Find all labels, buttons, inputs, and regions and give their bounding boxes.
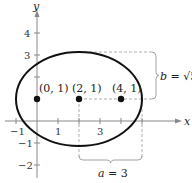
x-tick-3: 3 bbox=[97, 126, 103, 137]
point-label-2-1: (2, 1) bbox=[72, 82, 102, 95]
x-tick-1: 1 bbox=[55, 126, 61, 137]
y-tick-3: 3 bbox=[24, 50, 30, 61]
y-tick-neg2: −2 bbox=[18, 160, 33, 171]
point-2-1 bbox=[76, 96, 82, 102]
point-label-4-1: (4, 1) bbox=[112, 82, 142, 95]
point-4-1 bbox=[118, 96, 124, 102]
b-annotation: b = √5 bbox=[160, 70, 192, 83]
x-axis-label: x bbox=[184, 115, 191, 128]
a-value: = 3 bbox=[105, 167, 128, 180]
x-axis-arrow-icon bbox=[175, 119, 182, 124]
point-label-0-1: (0, 1) bbox=[39, 82, 69, 95]
b-symbol: b bbox=[160, 70, 167, 83]
y-tick-neg1: −1 bbox=[18, 138, 33, 149]
x-tick-neg1: −1 bbox=[10, 126, 25, 137]
point-0-1 bbox=[34, 96, 40, 102]
a-brace-icon bbox=[79, 156, 142, 163]
b-value: = √5 bbox=[167, 70, 192, 83]
a-annotation: a = 3 bbox=[98, 167, 128, 180]
ellipse-diagram: −1 1 3 4 3 −1 −2 x y (0, 1) (2, 1) (4, 1… bbox=[0, 0, 192, 183]
y-axis-label: y bbox=[32, 0, 40, 13]
axes bbox=[5, 14, 178, 178]
y-tick-4: 4 bbox=[24, 28, 30, 39]
b-brace-icon bbox=[152, 52, 159, 99]
